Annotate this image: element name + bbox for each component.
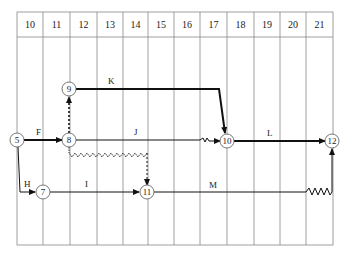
activity-label-i: I [85, 179, 88, 189]
activity-l: L [234, 128, 325, 141]
activity-i: I [50, 179, 139, 192]
time-label: 20 [280, 12, 306, 37]
time-label: 19 [254, 12, 280, 37]
svg-text:11: 11 [143, 187, 152, 197]
svg-text:9: 9 [67, 84, 72, 94]
time-grid [17, 12, 333, 245]
time-label: 13 [97, 12, 123, 37]
svg-text:12: 12 [328, 136, 337, 146]
node-5: 5 [10, 133, 24, 147]
time-label: 14 [123, 12, 148, 37]
node-9: 9 [62, 82, 76, 96]
time-label: 11 [43, 12, 70, 37]
time-label: 21 [306, 12, 333, 37]
activity-label-j: J [134, 127, 138, 137]
activity-h: H [18, 147, 35, 192]
activity-label-h: H [24, 179, 31, 189]
activity-label-f: F [36, 127, 41, 137]
dummy-8-11 [69, 147, 147, 185]
svg-text:10: 10 [223, 136, 233, 146]
node-7: 7 [36, 185, 50, 199]
node-8: 8 [62, 133, 76, 147]
activity-label-k: K [108, 76, 115, 86]
node-10: 10 [220, 134, 234, 148]
svg-text:5: 5 [15, 135, 20, 145]
activity-label-m: M [209, 180, 217, 190]
node-11: 11 [140, 185, 154, 199]
network-diagram: F H I J K L M 5 7 8 [0, 0, 347, 255]
time-label: 15 [148, 12, 174, 37]
time-label: 16 [174, 12, 200, 37]
node-12: 12 [325, 134, 339, 148]
activity-label-l: L [267, 128, 273, 138]
activity-m: M [154, 149, 332, 195]
time-label: 18 [227, 12, 254, 37]
time-label: 17 [200, 12, 227, 37]
svg-text:7: 7 [41, 187, 46, 197]
time-label: 10 [17, 12, 43, 37]
activity-k: K [76, 76, 225, 133]
svg-text:8: 8 [67, 135, 72, 145]
time-label: 12 [70, 12, 97, 37]
